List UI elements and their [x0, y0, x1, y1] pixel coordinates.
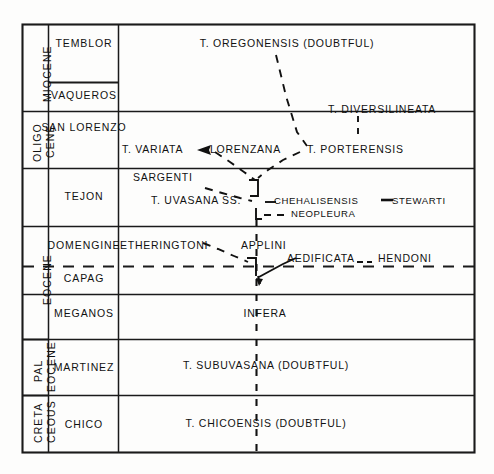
epoch-label-paleocene-line1: PAL: [33, 360, 44, 382]
formation-label-tejon: TEJON: [65, 191, 104, 202]
taxon-label-etheringtoni: ETHERINGTONI: [120, 240, 208, 251]
taxon-label-diversilineata: T. DIVERSILINEATA: [328, 104, 436, 115]
taxon-label-oregonensis: T. OREGONENSIS (DOUBTFUL): [200, 38, 375, 49]
taxon-label-applini: APPLINI: [241, 240, 287, 251]
taxon-label-subuvasana: T. SUBUVASANA (DOUBTFUL): [183, 360, 349, 371]
lineage-porterensis-to-junction: [258, 152, 300, 178]
taxon-label-hendoni: HENDONI: [378, 253, 432, 264]
lineage-junction-bracket-upper: [249, 180, 258, 196]
formation-label-vaqueros: VAQUEROS: [51, 90, 117, 101]
taxon-label-lorenzana: LORENZANA: [210, 144, 281, 155]
lineage-lorenzana-to-junction: [215, 152, 255, 180]
taxon-label-variata: T. VARIATA: [122, 144, 183, 155]
arrow-lorenzana-to-variata: [197, 145, 211, 155]
formation-label-meganos: MEGANOS: [54, 308, 114, 319]
epoch-label-eocene: EOCENE: [42, 254, 53, 305]
taxon-label-sargenti: SARGENTI: [133, 172, 193, 183]
lineage-oregonensis-porterensis: [276, 55, 307, 146]
taxon-label-chehalisensis: CHEHALISENSIS: [274, 196, 359, 206]
lineage-neopleura-bracket: [256, 208, 262, 219]
taxon-label-uvasana: T. UVASANA SS.: [151, 195, 241, 206]
formation-label-san-lorenzo: SAN LORENZO: [41, 122, 126, 133]
formation-label-martinez: MARTINEZ: [54, 362, 115, 373]
taxon-label-stewarti: STEWARTI: [392, 196, 446, 206]
chart-vector-layer: [0, 0, 494, 474]
stratigraphic-range-chart: MIOCENE OLIGO CENE EOCENE PAL EOCENE CRE…: [0, 0, 494, 474]
epoch-label-cretaceous-line2: CEOUS: [46, 400, 57, 443]
formation-label-chico: CHICO: [65, 419, 103, 430]
taxon-label-infera: INFERA: [243, 308, 286, 319]
taxon-label-porterensis: T. PORTERENSIS: [307, 144, 404, 155]
formation-label-capag: CAPAG: [64, 273, 104, 284]
taxon-label-neopleura: NEOPLEURA: [291, 209, 356, 219]
formation-label-temblor: TEMBLOR: [55, 38, 112, 49]
taxon-label-chicoensis: T. CHICOENSIS (DOUBTFUL): [186, 418, 347, 429]
formation-label-domengine: DOMENGINE: [48, 240, 121, 251]
epoch-label-cretaceous-line1: CRETA: [33, 403, 44, 443]
taxon-label-aedificata: AEDIFICATA: [287, 253, 355, 264]
